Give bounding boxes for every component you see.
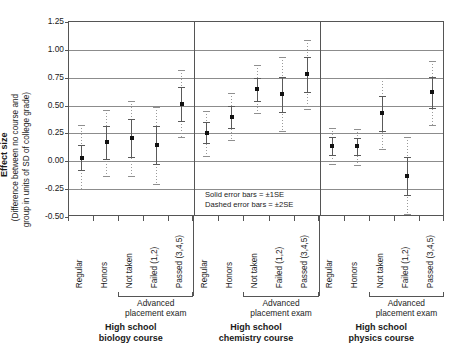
data-point-marker[interactable] xyxy=(155,143,159,147)
error-bar-2se-cap xyxy=(153,184,160,185)
data-point-marker[interactable] xyxy=(355,144,359,148)
error-bar-1se-cap xyxy=(379,131,386,132)
x-category-label: Regular xyxy=(326,260,334,289)
panel-divider xyxy=(320,22,321,215)
x-category-label: Failed (1,2) xyxy=(276,247,284,288)
x-tick-mark xyxy=(193,216,194,221)
panel-title: High schoolchemistry course xyxy=(193,322,318,344)
error-bar-2se-cap xyxy=(429,125,436,126)
error-bar-2se-cap xyxy=(429,61,436,62)
error-bar-1se-cap xyxy=(178,121,185,122)
error-bar-2se-cap xyxy=(404,137,411,138)
data-point-marker[interactable] xyxy=(105,140,109,144)
error-bar-1se-cap xyxy=(203,122,210,123)
ap-exam-bracket-tick xyxy=(118,292,119,296)
x-tick-mark xyxy=(118,216,119,221)
ap-exam-label: Advancedplacement exam xyxy=(221,298,340,318)
ap-exam-bracket xyxy=(118,296,193,297)
y-tick-label: 0.00 xyxy=(48,155,64,165)
error-bar-1se-cap xyxy=(329,155,336,156)
data-point-marker[interactable] xyxy=(80,156,84,160)
x-panel-divider xyxy=(319,216,320,296)
error-bar-1se-cap xyxy=(153,164,160,165)
error-bar-1se-cap xyxy=(103,126,110,127)
legend-line-solid: Solid error bars = ±1SE xyxy=(205,190,293,200)
data-point-marker[interactable] xyxy=(205,131,209,135)
error-bar-1se-cap xyxy=(254,101,261,102)
error-bar-2se-cap xyxy=(404,214,411,215)
gridline xyxy=(69,133,443,134)
gridline xyxy=(69,50,443,51)
error-bar-1se-cap xyxy=(228,128,235,129)
error-bar-2se-cap xyxy=(78,125,85,126)
error-bar-1se-cap xyxy=(354,155,361,156)
error-bar-2se-cap xyxy=(329,128,336,129)
error-bar-1se-cap xyxy=(103,159,110,160)
data-point-marker[interactable] xyxy=(255,87,259,91)
error-bar-2se-cap xyxy=(203,156,210,157)
error-bar-2se-cap xyxy=(203,111,210,112)
error-bar-1se-cap xyxy=(78,170,85,171)
error-bar-1se-cap xyxy=(404,195,411,196)
x-category-label: Honors xyxy=(351,262,359,288)
error-bar-2se-cap xyxy=(254,65,261,66)
x-tick-mark xyxy=(369,216,370,221)
panel-title: High schoolbiology course xyxy=(68,322,193,344)
data-point-marker[interactable] xyxy=(380,111,384,115)
error-bar-1se-cap xyxy=(178,87,185,88)
data-point-marker[interactable] xyxy=(130,136,134,140)
x-tick-mark xyxy=(243,216,244,221)
y-axis-title-sub-line2: group in units of SD of college grade) xyxy=(23,92,31,227)
error-bar-1se-cap xyxy=(329,137,336,138)
y-axis-tick-labels: 1.251.000.750.500.250.00-0.25-0.50 xyxy=(40,0,68,225)
error-bar-2se-cap xyxy=(228,93,235,94)
error-bar-1se-cap xyxy=(304,92,311,93)
ap-exam-label-line1: Advanced xyxy=(221,298,340,308)
data-point-marker[interactable] xyxy=(405,174,409,178)
error-bar-1se-cap xyxy=(304,57,311,58)
x-panel-divider xyxy=(193,216,194,296)
ap-exam-label: Advancedplacement exam xyxy=(96,298,215,318)
error-bar-1se-cap xyxy=(404,157,411,158)
error-bar-2se-cap xyxy=(228,140,235,141)
ap-exam-label-line2: placement exam xyxy=(347,308,456,318)
ap-exam-bracket-tick xyxy=(443,292,444,296)
data-point-marker[interactable] xyxy=(430,90,434,94)
x-tick-mark xyxy=(93,216,94,221)
x-tick-mark xyxy=(294,216,295,221)
data-point-marker[interactable] xyxy=(305,72,309,76)
error-bar-2se-cap xyxy=(304,109,311,110)
error-bar-2se-cap xyxy=(279,57,286,58)
x-category-label: Passed (3,4,5) xyxy=(176,235,184,288)
data-point-marker[interactable] xyxy=(230,115,234,119)
y-tick-label: 1.00 xyxy=(48,44,64,54)
error-bar-2se-cap xyxy=(379,78,386,79)
y-tick-label: 0.50 xyxy=(48,100,64,110)
panel-title: High schoolphysics course xyxy=(319,322,444,344)
x-tick-mark xyxy=(68,216,69,221)
data-point-marker[interactable] xyxy=(280,92,284,96)
error-bar-2se-cap xyxy=(354,129,361,130)
data-point-marker[interactable] xyxy=(180,102,184,106)
x-axis: RegularHonorsNot takenFailed (1,2)Passed… xyxy=(68,216,444,353)
error-bar-2se-cap xyxy=(329,164,336,165)
panel-title-line1: High school xyxy=(68,322,193,333)
chart-figure: Effect size (Difference between no cours… xyxy=(0,0,456,353)
x-category-label: Regular xyxy=(76,260,84,289)
x-category-label: Failed (1,2) xyxy=(401,247,409,288)
error-bar-1se-cap xyxy=(429,77,436,78)
ap-exam-bracket-tick xyxy=(243,292,244,296)
panel-title-line1: High school xyxy=(319,322,444,333)
ap-exam-label-line2: placement exam xyxy=(96,308,215,318)
data-point-marker[interactable] xyxy=(330,144,334,148)
error-bar-2se-cap xyxy=(128,101,135,102)
x-tick-mark xyxy=(319,216,320,221)
x-category-label: Failed (1,2) xyxy=(151,247,159,288)
legend-line-dashed: Dashed error bars = ±2SE xyxy=(205,200,293,210)
ap-exam-label-line1: Advanced xyxy=(347,298,456,308)
panel-title-line2: chemistry course xyxy=(193,333,318,344)
error-bar-2se-cap xyxy=(103,176,110,177)
error-bar-1se-cap xyxy=(153,126,160,127)
y-tick-label: 0.25 xyxy=(48,127,64,137)
y-axis-title: Effect size (Difference between no cours… xyxy=(0,0,40,225)
